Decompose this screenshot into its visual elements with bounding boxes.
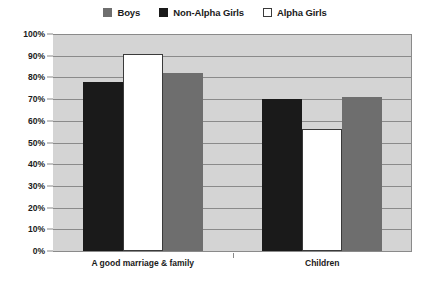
legend-swatch-boys-icon (103, 8, 112, 17)
y-axis-tick-label: 20% (3, 203, 45, 213)
y-tick-mark (47, 142, 53, 143)
bar-boys-group-2 (342, 97, 382, 251)
y-tick-mark (47, 164, 53, 165)
legend-item-non-alpha-girls: Non-Alpha Girls (159, 7, 244, 18)
y-axis-tick-label: 50% (3, 138, 45, 148)
y-axis-tick-label: 70% (3, 94, 45, 104)
y-tick-mark (47, 77, 53, 78)
bar-alpha-girls-group-2 (302, 129, 342, 251)
y-tick-mark (47, 207, 53, 208)
y-axis-tick-label: 40% (3, 159, 45, 169)
y-axis-tick-label: 80% (3, 72, 45, 82)
y-tick-mark (47, 120, 53, 121)
gridline (53, 251, 412, 252)
y-tick-mark (47, 229, 53, 230)
legend-swatch-alpha-girls-icon (263, 8, 272, 17)
gridline (53, 77, 412, 78)
y-axis-tick-label: 30% (3, 181, 45, 191)
legend-item-boys: Boys (103, 7, 140, 18)
bar-non-alpha-girls-group-1 (83, 82, 123, 251)
y-axis-tick-label: 10% (3, 224, 45, 234)
bar-alpha-girls-group-1 (123, 54, 163, 251)
x-tick-mark (233, 253, 234, 258)
y-axis-tick-label: 0% (3, 246, 45, 256)
gridline (53, 56, 412, 57)
y-tick-mark (47, 55, 53, 56)
x-axis-category-label: A good marriage & family (91, 258, 194, 268)
y-axis-tick-label: 100% (3, 29, 45, 39)
legend-swatch-non-alpha-girls-icon (159, 8, 168, 17)
legend-label-non-alpha-girls: Non-Alpha Girls (173, 7, 244, 18)
plot-wrapper: 0%10%20%30%40%50%60%70%80%90%100% A good… (53, 34, 412, 252)
y-axis-tick-label: 90% (3, 51, 45, 61)
bar-boys-group-1 (163, 73, 203, 251)
legend-label-alpha-girls: Alpha Girls (277, 7, 327, 18)
y-tick-mark (47, 99, 53, 100)
chart-legend: Boys Non-Alpha Girls Alpha Girls (0, 7, 430, 18)
legend-item-alpha-girls: Alpha Girls (263, 7, 327, 18)
y-tick-mark (47, 251, 53, 252)
y-axis-tick-label: 60% (3, 116, 45, 126)
y-tick-mark (47, 185, 53, 186)
gridline (53, 34, 412, 35)
bar-chart: Boys Non-Alpha Girls Alpha Girls 0%10%20… (0, 0, 430, 286)
legend-label-boys: Boys (117, 7, 140, 18)
y-tick-mark (47, 34, 53, 35)
x-axis-category-label: Children (305, 258, 339, 268)
bar-non-alpha-girls-group-2 (262, 99, 302, 251)
